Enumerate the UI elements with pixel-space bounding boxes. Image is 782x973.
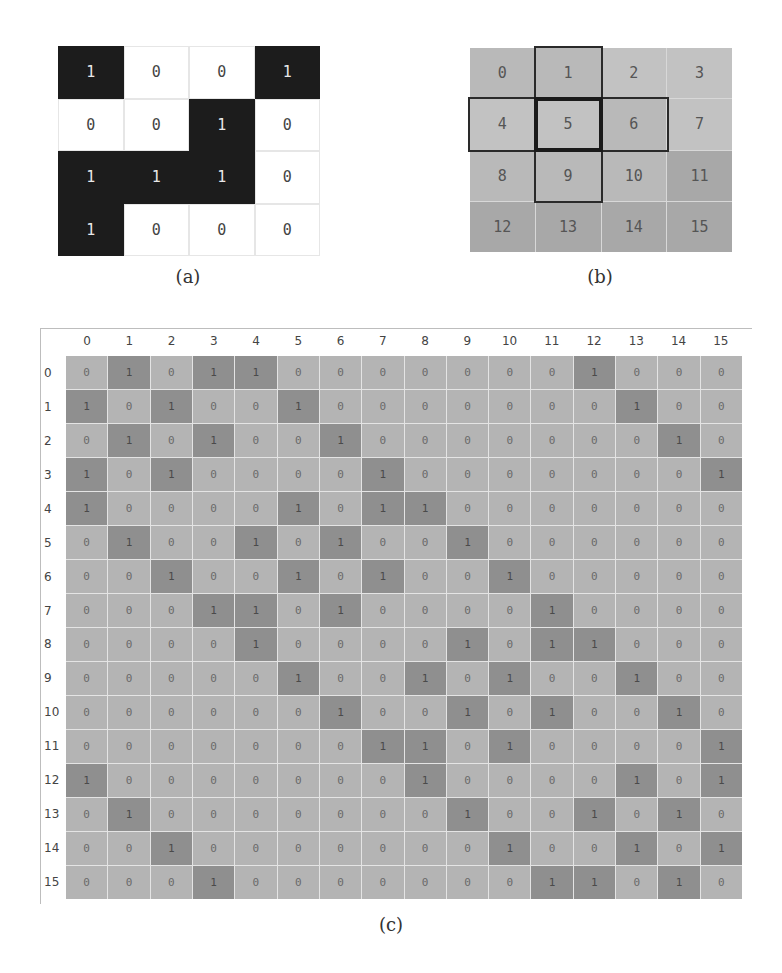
matrix-cell: 0 [151,526,192,559]
matrix-cell: 0 [320,492,361,525]
matrix-cell: 0 [66,696,107,729]
matrix-cell: 0 [320,662,361,695]
matrix-cell: 0 [193,662,234,695]
matrix-cell: 0 [362,356,403,389]
row-header: 7 [42,594,64,628]
matrix-cell: 0 [616,424,657,457]
matrix-cell: 0 [151,356,192,389]
matrix-cell: 1 [193,356,234,389]
matrix-cell: 0 [616,696,657,729]
matrix-cell: 0 [108,390,149,423]
matrix-cell: 1 [405,764,446,797]
matrix-cell: 0 [151,628,192,661]
matrix-cell: 1 [616,764,657,797]
matrix-cell: 0 [447,594,488,627]
matrix-cell: 0 [531,662,572,695]
neighbor-box [599,97,669,152]
grid-a-cell: 0 [58,99,124,152]
row-header: 9 [42,661,64,695]
matrix-cell: 1 [531,594,572,627]
matrix-cell: 0 [405,594,446,627]
matrix-cell: 0 [193,492,234,525]
matrix-cell: 0 [151,866,192,899]
matrix-cell: 0 [278,628,319,661]
matrix-cell: 0 [701,594,742,627]
matrix-cell: 0 [574,492,615,525]
matrix-cell: 1 [320,594,361,627]
row-header: 3 [42,458,64,492]
center-box [534,97,604,152]
row-header: 4 [42,492,64,526]
matrix-cell: 0 [405,390,446,423]
matrix-cell: 1 [574,798,615,831]
matrix-cell: 1 [574,866,615,899]
matrix-cell: 0 [616,356,657,389]
column-header: 3 [193,334,235,354]
matrix-cell: 0 [108,594,149,627]
matrix-cell: 0 [108,458,149,491]
matrix-cell: 0 [278,594,319,627]
matrix-cell: 0 [66,356,107,389]
matrix-cell: 1 [320,424,361,457]
matrix-cell: 0 [531,764,572,797]
matrix-cell: 0 [701,866,742,899]
matrix-cell: 0 [405,628,446,661]
matrix-cell: 0 [362,764,403,797]
matrix-cell: 0 [151,798,192,831]
matrix-cell: 0 [447,764,488,797]
caption-a: (a) [148,266,228,287]
matrix-cell: 0 [235,560,276,593]
column-header: 8 [404,334,446,354]
matrix-cell: 0 [193,628,234,661]
column-header: 6 [320,334,362,354]
matrix-cell: 0 [489,628,530,661]
matrix-cell: 0 [151,594,192,627]
matrix-cell: 0 [320,356,361,389]
matrix-cell: 1 [66,764,107,797]
matrix-cell: 1 [405,492,446,525]
matrix-cell: 0 [701,696,742,729]
matrix-cell: 1 [151,458,192,491]
matrix-cell: 0 [362,832,403,865]
matrix-cell: 0 [66,526,107,559]
grid-a-cell: 0 [124,46,190,99]
matrix-cell: 0 [489,424,530,457]
matrix-cell: 0 [193,764,234,797]
matrix-cell: 0 [658,458,699,491]
matrix-cell: 0 [278,730,319,763]
matrix-cell: 0 [405,798,446,831]
matrix-cell: 1 [489,832,530,865]
grid-a-cell: 1 [58,204,124,257]
matrix-cell: 0 [531,492,572,525]
matrix-cell: 0 [362,696,403,729]
matrix-cell: 1 [193,594,234,627]
row-header: 12 [42,763,64,797]
matrix-cell: 1 [447,798,488,831]
adjacency-matrix: 0101100000001000101001000000010001010010… [66,356,742,899]
matrix-cell: 0 [616,628,657,661]
matrix-cell: 0 [66,628,107,661]
matrix-cell: 1 [108,798,149,831]
matrix-cell: 0 [66,662,107,695]
matrix-cell: 0 [701,492,742,525]
matrix-cell: 1 [151,560,192,593]
matrix-cell: 0 [320,560,361,593]
grid-a-cell: 1 [58,46,124,99]
matrix-cell: 0 [66,594,107,627]
matrix-cell: 1 [66,390,107,423]
matrix-cell: 0 [108,492,149,525]
matrix-cell: 1 [278,662,319,695]
matrix-cell: 0 [447,662,488,695]
matrix-cell: 1 [66,492,107,525]
matrix-cell: 0 [574,696,615,729]
row-header: 5 [42,526,64,560]
matrix-cell: 1 [235,356,276,389]
matrix-cell: 0 [235,424,276,457]
column-header: 14 [658,334,700,354]
matrix-cell: 0 [447,356,488,389]
matrix-cell: 0 [658,356,699,389]
matrix-cell: 0 [320,458,361,491]
matrix-cell: 1 [489,662,530,695]
matrix-cell: 0 [235,798,276,831]
matrix-cell: 0 [405,458,446,491]
